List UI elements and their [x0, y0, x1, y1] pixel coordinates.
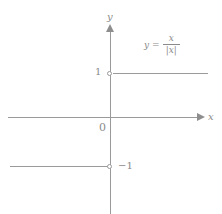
open-endpoint-positive-icon — [107, 71, 112, 76]
branch-negative-line — [10, 166, 110, 167]
x-axis-label: x — [208, 112, 214, 122]
equation-lhs: y — [144, 40, 149, 50]
y-tick-label-positive-one: 1 — [95, 67, 101, 77]
open-endpoint-negative-icon — [107, 164, 112, 169]
equation-numerator: x — [166, 34, 177, 44]
y-axis-label: y — [107, 12, 113, 22]
equation-annotation: y = x |x| — [144, 34, 180, 56]
function-graph-figure: y x 0 1 −1 y = x |x| — [0, 0, 222, 214]
equation-fraction: x |x| — [163, 34, 180, 56]
equation-denominator: |x| — [163, 45, 180, 55]
y-axis-line — [110, 30, 111, 214]
y-tick-label-negative-one: −1 — [118, 161, 133, 171]
origin-label: 0 — [99, 122, 106, 133]
y-axis-arrow-icon — [106, 24, 114, 32]
equation-relation: = — [151, 40, 161, 50]
x-axis-line — [8, 117, 199, 118]
x-axis-arrow-icon — [197, 113, 205, 121]
branch-positive-line — [113, 73, 208, 74]
